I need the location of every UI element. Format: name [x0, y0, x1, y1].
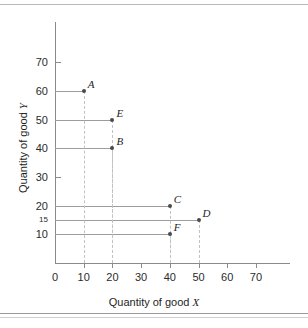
x-tick-30 [141, 264, 142, 268]
x-tick-70 [256, 264, 257, 268]
x-tick-label-0: 0 [52, 272, 58, 283]
x-axis-title-prefix: Quantity of good [109, 296, 193, 308]
x-tick-label-70: 70 [250, 272, 262, 283]
drop-line-B [112, 148, 113, 263]
data-point-label-B: B [116, 136, 123, 147]
x-tick-label-20: 20 [106, 272, 118, 283]
x-tick-60 [227, 264, 228, 268]
x-tick-10 [84, 264, 85, 268]
data-point-label-A: A [88, 79, 95, 90]
x-tick-label-50: 50 [192, 272, 204, 283]
data-point-F[interactable] [168, 232, 172, 236]
drop-line-D [199, 220, 200, 263]
scatter-plot: 010203040506070 1015203040506070 AEBCDF … [0, 0, 308, 328]
x-tick-label-30: 30 [135, 272, 147, 283]
x-tick-label-40: 40 [164, 272, 176, 283]
data-point-label-E: E [116, 108, 123, 119]
data-point-label-F: F [174, 222, 181, 233]
y-axis-title-prefix: Quantity of good [17, 109, 29, 193]
x-axis-title-variable: X [193, 296, 200, 308]
x-tick-label-10: 10 [78, 272, 90, 283]
drop-line-A [84, 91, 85, 263]
y-axis-line [55, 22, 56, 264]
x-tick-40 [170, 264, 171, 268]
data-point-C[interactable] [168, 204, 172, 208]
y-axis-title: Quantity of good Y [17, 58, 29, 238]
data-point-A[interactable] [82, 89, 86, 93]
y-axis-title-variable: Y [17, 103, 29, 109]
data-point-E[interactable] [110, 118, 114, 122]
x-axis-title: Quantity of good X [0, 296, 308, 308]
data-point-D[interactable] [197, 218, 201, 222]
data-point-B[interactable] [110, 146, 114, 150]
y-tick-70 [56, 62, 61, 63]
y-tick-30 [56, 177, 61, 178]
x-tick-20 [112, 264, 113, 268]
leader-line-A [55, 91, 84, 92]
data-point-label-C: C [174, 194, 181, 205]
x-tick-50 [199, 264, 200, 268]
x-axis-line [55, 263, 290, 264]
drop-line-F [170, 234, 171, 263]
data-point-label-D: D [203, 208, 211, 219]
x-tick-label-60: 60 [221, 272, 233, 283]
